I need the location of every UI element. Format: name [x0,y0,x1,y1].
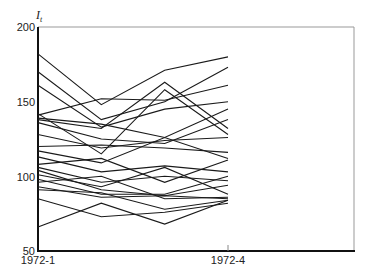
y-tick-150: 150 [17,96,35,108]
series-line-1 [38,54,228,105]
line-chart: It 200 150 100 50 1972-1 1972-4 [0,0,374,278]
x-tick-label-1972-4: 1972-4 [211,254,245,266]
y-tick-100: 100 [17,171,35,183]
series-line-2 [38,67,228,119]
x-tick-label-1972-1: 1972-1 [21,254,55,266]
series-lines [38,54,228,227]
y-axis-title: It [35,8,43,24]
y-tick-200: 200 [17,21,35,33]
